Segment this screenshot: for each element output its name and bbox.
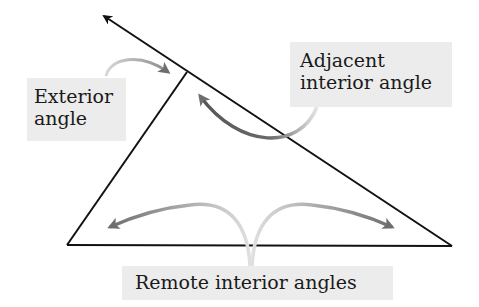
adjacent-interior-angle-label: Adjacent interior angle: [290, 42, 452, 107]
exterior-label-line-1: Exterior: [34, 85, 126, 107]
exterior-angle-label: Exterior angle: [27, 78, 126, 141]
exterior-angle-arrow: [106, 60, 168, 76]
adjacent-label-line-2: interior angle: [300, 71, 452, 93]
remote-angle-arrow-left: [110, 204, 250, 266]
triangle-base: [67, 245, 452, 246]
adjacent-label-line-1: Adjacent: [300, 49, 452, 71]
remote-angle-arrow-right: [252, 204, 392, 266]
exterior-label-line-2: angle: [34, 107, 126, 129]
remote-label-text: Remote interior angles: [135, 271, 393, 293]
remote-interior-angles-label: Remote interior angles: [122, 266, 393, 300]
